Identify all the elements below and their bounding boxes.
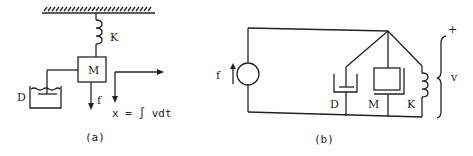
caption-b: (b)	[314, 133, 334, 146]
source-f-label: f	[216, 69, 221, 82]
damper-d	[30, 70, 78, 108]
caption-a: (a)	[85, 131, 105, 144]
inductor-k-element	[422, 66, 428, 117]
mechanical-electrical-analogy-diagram: K M D f x = ∫ vdt (a)	[0, 0, 473, 156]
current-source-f	[230, 63, 259, 85]
ceiling-ground	[42, 7, 155, 13]
force-arrow	[88, 82, 94, 110]
plus-sign: +	[448, 23, 457, 36]
damper-d-label-b: D	[330, 98, 339, 111]
force-f-label: f	[97, 94, 102, 107]
spring-k-label: K	[110, 31, 119, 44]
displacement-axes	[112, 69, 164, 103]
diagram-b-electrical: f D M K + v (b)	[216, 23, 458, 146]
mass-m-label: M	[88, 64, 99, 77]
diagram-a-mechanical: K M D f x = ∫ vdt (a)	[17, 7, 172, 144]
mass-m-label-b: M	[368, 98, 379, 111]
damper-d-label: D	[17, 91, 26, 104]
spring-k	[96, 13, 102, 57]
voltage-v-label: v	[450, 71, 458, 84]
displacement-formula: x = ∫ vdt	[112, 107, 172, 120]
inductor-k-label: K	[407, 98, 416, 111]
voltage-brace	[437, 36, 446, 118]
